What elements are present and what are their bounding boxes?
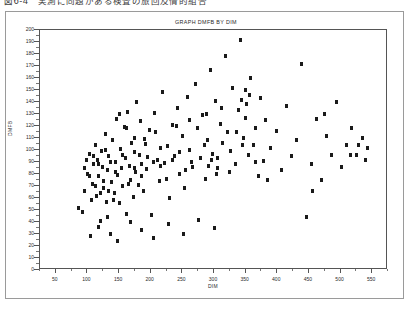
- data-point: [114, 160, 117, 164]
- data-point: [242, 136, 245, 140]
- x-tick-label: 350: [240, 276, 248, 282]
- data-point: [262, 159, 265, 163]
- x-tick-label: 400: [272, 276, 280, 282]
- data-point: [196, 126, 199, 130]
- x-tick-mark: [181, 269, 182, 273]
- data-point: [99, 191, 102, 195]
- data-point: [97, 225, 100, 229]
- data-point: [140, 174, 143, 178]
- data-point: [241, 143, 244, 147]
- data-point: [216, 156, 219, 160]
- data-point: [140, 162, 143, 166]
- data-point: [361, 136, 364, 140]
- data-point: [112, 198, 115, 202]
- data-point: [125, 212, 128, 216]
- data-point: [126, 110, 129, 114]
- data-point: [325, 134, 328, 138]
- data-point: [107, 189, 110, 193]
- data-point: [168, 196, 171, 200]
- data-point: [213, 226, 216, 230]
- x-tick-mark-minor: [387, 269, 388, 271]
- data-point: [148, 128, 151, 132]
- y-tick-label: 140: [4, 99, 34, 104]
- data-point: [280, 168, 283, 172]
- data-point: [183, 186, 186, 190]
- data-point: [116, 239, 119, 243]
- data-point: [171, 158, 174, 162]
- data-point: [184, 168, 187, 172]
- data-point: [194, 82, 197, 86]
- data-point: [188, 148, 191, 152]
- data-point: [121, 153, 124, 157]
- y-tick-label: 180: [4, 51, 34, 56]
- x-tick-label: 200: [146, 276, 154, 282]
- data-point: [81, 210, 84, 214]
- scatter-plot-area: [39, 29, 387, 269]
- data-point: [133, 136, 136, 140]
- data-point: [89, 234, 92, 238]
- x-tick-mark: [276, 269, 277, 273]
- data-point: [320, 178, 323, 182]
- y-tick-label: 190: [4, 39, 34, 44]
- data-point: [95, 194, 98, 198]
- x-tick-mark-minor: [39, 269, 40, 271]
- data-point: [323, 112, 326, 116]
- data-point: [181, 134, 184, 138]
- data-point: [124, 156, 127, 160]
- data-point: [215, 172, 218, 176]
- data-point: [152, 236, 155, 240]
- figure-page: 図6-4 実測に同題がある検査の旅回及情的組合 GRAPH DMFB BY DI…: [0, 0, 412, 309]
- x-tick-mark: [86, 269, 87, 273]
- data-point: [146, 155, 149, 159]
- x-tick-label: 100: [82, 276, 90, 282]
- data-point: [127, 182, 130, 186]
- data-point: [364, 158, 367, 162]
- data-point: [264, 118, 267, 122]
- y-tick-label: 40: [4, 219, 34, 224]
- data-point: [330, 153, 333, 157]
- y-tick-label: 150: [4, 87, 34, 92]
- data-point: [171, 123, 174, 127]
- x-tick-label: 50: [52, 276, 58, 282]
- data-point: [102, 179, 105, 183]
- data-point: [111, 138, 114, 142]
- y-tick-label: 200: [4, 27, 34, 32]
- data-point: [186, 95, 189, 99]
- y-tick-label: 170: [4, 63, 34, 68]
- data-point: [182, 232, 185, 236]
- y-tick-label: 100: [4, 147, 34, 152]
- y-tick-label: 80: [4, 171, 34, 176]
- x-tick-mark: [245, 269, 246, 273]
- data-point: [197, 218, 200, 222]
- x-tick-mark-minor: [292, 269, 293, 271]
- data-point: [92, 154, 95, 158]
- data-point: [109, 160, 112, 164]
- data-point: [188, 118, 191, 122]
- data-point: [275, 129, 278, 133]
- data-point: [114, 170, 117, 174]
- y-tick-label: 60: [4, 195, 34, 200]
- data-point: [345, 143, 348, 147]
- data-point: [315, 117, 318, 121]
- data-point: [231, 86, 234, 90]
- y-tick-label: 50: [4, 207, 34, 212]
- data-point: [83, 189, 86, 193]
- data-point: [154, 130, 157, 134]
- x-tick-mark: [55, 269, 56, 273]
- data-point: [226, 130, 229, 134]
- data-point: [113, 191, 116, 195]
- data-point: [107, 154, 110, 158]
- data-point: [125, 126, 128, 130]
- data-point: [203, 143, 206, 147]
- data-point: [88, 174, 91, 178]
- data-point: [269, 146, 272, 150]
- data-point: [335, 100, 338, 104]
- x-tick-mark-minor: [260, 269, 261, 271]
- data-point: [99, 219, 102, 223]
- data-point: [178, 150, 181, 154]
- data-point: [140, 228, 143, 232]
- data-point: [244, 116, 247, 120]
- x-tick-mark: [150, 269, 151, 273]
- y-tick-label: 130: [4, 111, 34, 116]
- x-tick-label: 300: [209, 276, 217, 282]
